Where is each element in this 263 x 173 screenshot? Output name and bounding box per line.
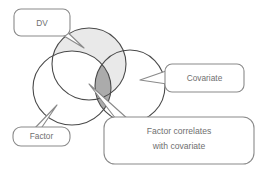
callout-covariate-label: Covariate [187, 73, 223, 83]
callout-dv-label: DV [36, 18, 48, 28]
venn-diagram-canvas: DV Covariate Factor Factor correlates wi… [0, 0, 263, 173]
callout-dv[interactable]: DV [14, 9, 84, 48]
callout-factor-label: Factor [30, 131, 54, 141]
venn-diagram-figure: DV Covariate Factor Factor correlates wi… [0, 0, 263, 173]
callout-factor-correlates-line1: Factor correlates [147, 126, 211, 136]
callout-factor-correlates-line2: with covariate [152, 141, 206, 151]
